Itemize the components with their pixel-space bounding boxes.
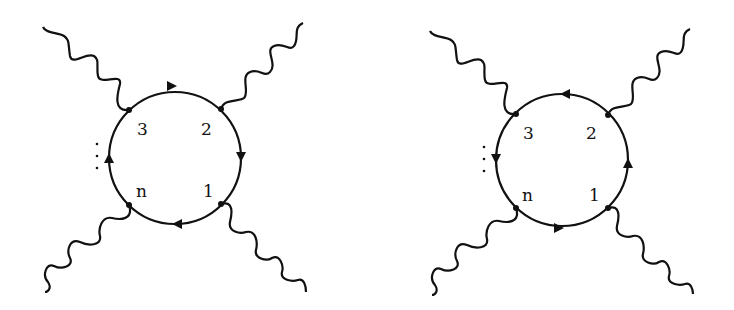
photon-line [221, 23, 303, 109]
arrow-icon [167, 81, 177, 91]
vertex-label-2: 2 [201, 119, 212, 139]
ellipsis-icon [483, 146, 486, 173]
photon-line [430, 31, 516, 114]
feynman-diagrams: 3 2 1 n 3 2 1 n [0, 0, 734, 310]
arrow-icon [491, 154, 501, 164]
arrow-icon [560, 89, 570, 99]
vertex-label-1: 1 [589, 185, 600, 205]
photon-line [45, 205, 130, 292]
diagram-right: 3 2 1 n [430, 29, 693, 295]
arrow-icon [172, 219, 182, 229]
ellipsis-icon [96, 143, 99, 170]
vertex-label-n: n [522, 185, 533, 205]
photon-line [608, 29, 690, 115]
diagram-left: 3 2 1 n [43, 23, 306, 292]
photon-line [608, 207, 693, 294]
vertex-label-3: 3 [137, 119, 148, 139]
arrow-icon [623, 158, 633, 168]
vertex-label-n: n [136, 181, 147, 201]
vertex-label-3: 3 [523, 123, 534, 143]
photon-line [221, 203, 306, 292]
vertex-label-2: 2 [586, 123, 597, 143]
arrow-icon [554, 223, 564, 233]
photon-line [432, 208, 517, 295]
arrow-icon [236, 152, 246, 162]
vertex-label-1: 1 [203, 181, 214, 201]
photon-line [43, 27, 129, 110]
arrow-icon [104, 153, 114, 163]
